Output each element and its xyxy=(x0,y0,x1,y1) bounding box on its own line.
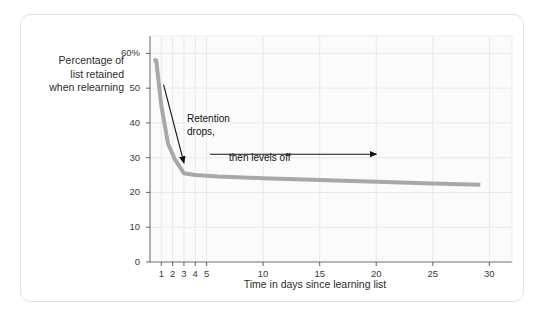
y-tick-label: 10 xyxy=(110,221,140,232)
plot-background xyxy=(150,36,512,262)
y-axis-title-line-3: when relearning xyxy=(24,81,124,95)
y-axis-title: Percentage of list retained when relearn… xyxy=(24,54,124,95)
annotation-retention-drops-line-2: drops, xyxy=(187,126,230,139)
x-tick-label: 10 xyxy=(251,268,275,279)
y-tick-label: 0 xyxy=(110,256,140,267)
x-tick-label: 30 xyxy=(477,268,501,279)
y-tick-label: 50 xyxy=(110,82,140,93)
y-tick-label: 30 xyxy=(110,152,140,163)
y-tick-label: 20 xyxy=(110,186,140,197)
x-tick-label: 5 xyxy=(195,268,219,279)
retention-chart: Percentage of list retained when relearn… xyxy=(0,0,544,316)
y-tick-label: 60% xyxy=(110,47,140,58)
plot-area-background xyxy=(150,36,512,262)
x-tick-label: 20 xyxy=(364,268,388,279)
y-axis-title-line-2: list retained xyxy=(24,68,124,82)
x-axis-title: Time in days since learning list xyxy=(180,278,450,290)
x-tick-label: 15 xyxy=(308,268,332,279)
annotation-retention-drops-line-1: Retention xyxy=(187,113,230,126)
x-tick-label: 25 xyxy=(421,268,445,279)
annotation-retention-drops: Retention drops, xyxy=(187,113,230,138)
y-tick-label: 40 xyxy=(110,117,140,128)
y-axis-title-line-1: Percentage of xyxy=(24,54,124,68)
annotation-then-levels-off: then levels off xyxy=(229,152,291,165)
